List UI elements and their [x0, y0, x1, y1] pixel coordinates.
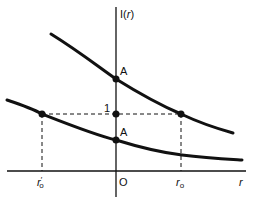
x-axis-label: r [239, 176, 244, 188]
lower-intercept-label: A [120, 126, 128, 138]
upper-intercept-label: A [120, 65, 128, 77]
y-axis-label: I(r) [120, 8, 134, 20]
point-unit [113, 111, 120, 118]
point-lower-intercept [113, 137, 120, 144]
r0-label: ro [176, 176, 185, 190]
upper-curve [51, 34, 233, 133]
point-r0-prime [39, 111, 46, 118]
unit-tick-label: 1 [104, 102, 110, 114]
point-r0 [178, 111, 185, 118]
origin-label: O [119, 176, 128, 188]
point-upper-intercept [113, 76, 120, 83]
r0-prime-label: r′o [37, 175, 44, 190]
diagram-canvas: I(r) A 1 A O r ro r′o [0, 0, 255, 203]
